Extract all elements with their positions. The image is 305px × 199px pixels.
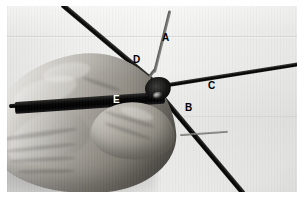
background-seam-highlight [7,37,297,38]
glove-crease-finger [82,76,121,93]
label-a: A [162,33,169,43]
label-e: E [113,95,120,105]
label-d: D [133,55,140,65]
screenshot-root: A D C B E [0,0,305,199]
photograph: A D C B E [7,6,297,192]
label-c: C [208,81,215,91]
glove-crease-4 [17,169,75,174]
label-b: B [185,103,192,113]
